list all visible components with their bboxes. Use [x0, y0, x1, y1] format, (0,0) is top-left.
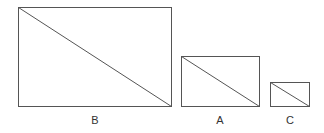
- label-a: A: [210, 114, 230, 126]
- label-c: C: [280, 114, 300, 126]
- rectangle-b: [19, 8, 172, 107]
- diagram-canvas: [0, 0, 324, 133]
- rectangle-c: [271, 83, 310, 107]
- label-b: B: [85, 114, 105, 126]
- rectangle-a: [182, 57, 260, 107]
